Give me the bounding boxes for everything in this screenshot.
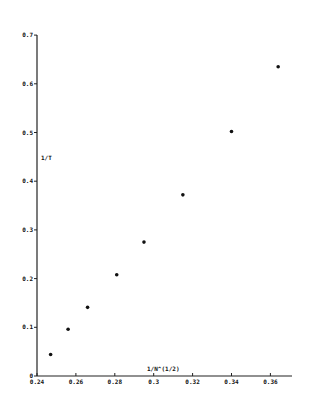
x-axis-ticks: 0.240.260.280.30.320.340.36 <box>30 373 278 385</box>
x-tick-label: 0.3 <box>148 378 159 385</box>
x-tick-label: 0.32 <box>185 378 200 385</box>
data-point <box>142 240 146 244</box>
data-point <box>181 193 185 197</box>
scatter-chart: 00.10.20.30.40.50.60.7 0.240.260.280.30.… <box>0 0 309 402</box>
x-tick-label: 0.36 <box>263 378 278 385</box>
y-tick-label: 0.1 <box>22 323 33 330</box>
y-axis-label: 1/T <box>41 154 52 161</box>
y-tick-label: 0.7 <box>22 31 33 38</box>
y-tick-label: 0.3 <box>22 226 33 233</box>
data-point <box>49 353 53 357</box>
axes <box>37 35 292 376</box>
y-tick-label: 0.6 <box>22 80 33 87</box>
y-axis-ticks: 00.10.20.30.40.50.60.7 <box>22 31 37 379</box>
y-tick-label: 0.4 <box>22 177 33 184</box>
data-point <box>66 327 70 331</box>
x-tick-label: 0.24 <box>30 378 45 385</box>
x-tick-label: 0.34 <box>224 378 239 385</box>
x-tick-label: 0.28 <box>108 378 123 385</box>
data-point <box>276 65 280 69</box>
data-points <box>49 65 280 356</box>
y-tick-label: 0.5 <box>22 129 33 136</box>
data-point <box>115 273 119 277</box>
data-point <box>230 130 234 134</box>
y-tick-label: 0.2 <box>22 275 33 282</box>
x-axis-label: 1/N^(1/2) <box>147 365 180 372</box>
x-tick-label: 0.26 <box>69 378 84 385</box>
data-point <box>86 306 90 310</box>
